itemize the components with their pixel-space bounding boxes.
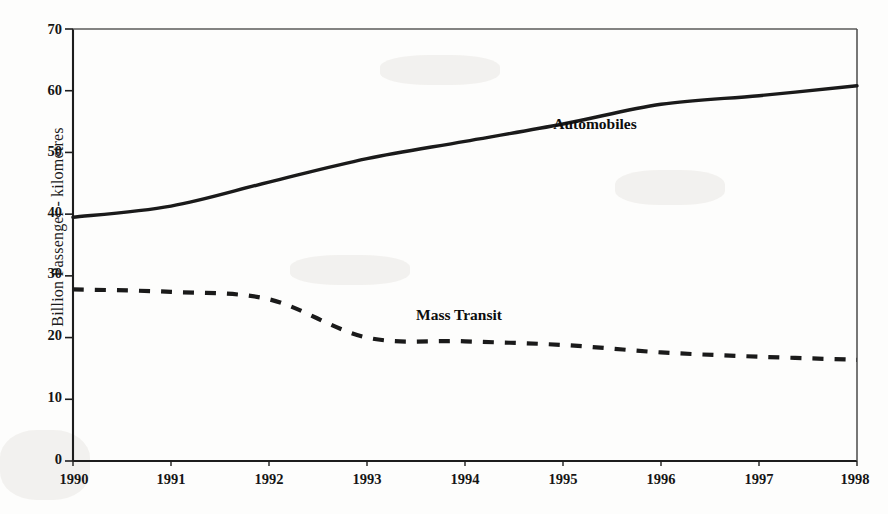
series-label-mass-transit: Mass Transit (416, 306, 502, 324)
series-line-automobiles (73, 86, 857, 217)
chart-figure: Billion Passenger - kilometres 70 60 50 … (0, 0, 888, 514)
axis-frame (73, 29, 857, 461)
series-label-automobiles: Automobiles (553, 115, 637, 133)
y-tick-marks (65, 29, 73, 461)
series-line-mass-transit (73, 289, 857, 359)
plot-area (0, 0, 888, 514)
